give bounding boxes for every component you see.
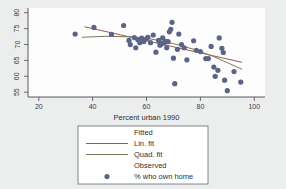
data-point xyxy=(145,35,150,40)
y-tick-label: 75 xyxy=(14,25,21,33)
chart-legend: FittedLin. fitQuad. fitObserved% who own… xyxy=(78,126,208,184)
data-point xyxy=(153,50,158,55)
y-tick-label: 65 xyxy=(14,56,21,64)
data-point xyxy=(73,31,78,36)
data-point xyxy=(151,32,156,37)
data-point xyxy=(182,45,187,50)
data-point xyxy=(238,79,243,84)
legend-marker-swatch xyxy=(104,174,109,179)
data-point xyxy=(172,81,177,86)
data-point xyxy=(175,47,180,52)
x-axis-ticks xyxy=(39,97,255,101)
data-point xyxy=(169,20,174,25)
x-tick-label: 80 xyxy=(197,103,205,110)
data-point xyxy=(209,44,214,49)
data-point xyxy=(198,49,203,54)
plot-panel xyxy=(28,8,265,97)
legend-label: Observed xyxy=(134,161,167,170)
data-point xyxy=(121,23,126,28)
scatter-plot: 80 75 70 65 60 55 20 40 60 80 100 Percen… xyxy=(0,0,286,189)
legend-label: Lin. fit xyxy=(134,139,155,148)
data-point xyxy=(91,25,96,30)
y-axis-tick-labels: 80 75 70 65 60 55 xyxy=(14,9,21,96)
data-point xyxy=(148,40,153,45)
data-point xyxy=(171,56,176,61)
x-tick-label: 20 xyxy=(35,103,43,110)
data-point xyxy=(184,57,189,62)
data-point xyxy=(215,68,220,73)
x-axis-title: Percent urban 1990 xyxy=(114,113,180,122)
legend-label: Quad. fit xyxy=(134,150,163,159)
y-tick-label: 60 xyxy=(14,72,21,80)
data-point xyxy=(165,39,170,44)
data-point xyxy=(225,88,230,93)
x-axis-tick-labels: 20 40 60 80 100 xyxy=(35,103,260,110)
data-point xyxy=(222,78,227,83)
data-point xyxy=(231,69,236,74)
data-point xyxy=(206,56,211,61)
legend-label: % who own home xyxy=(134,172,193,181)
data-point xyxy=(164,45,169,50)
y-tick-label: 70 xyxy=(14,41,21,49)
data-point xyxy=(217,35,222,40)
data-point xyxy=(109,32,114,37)
data-point xyxy=(133,45,138,50)
data-point xyxy=(221,50,226,55)
data-point xyxy=(211,65,216,70)
data-point xyxy=(176,31,181,36)
data-point xyxy=(191,38,196,43)
y-axis-ticks xyxy=(24,13,28,93)
x-tick-label: 100 xyxy=(248,103,260,110)
data-point xyxy=(168,27,173,32)
data-point xyxy=(213,74,218,79)
y-tick-label: 55 xyxy=(14,88,21,96)
data-point xyxy=(128,42,133,47)
y-tick-label: 80 xyxy=(14,9,21,17)
chart-figure: 80 75 70 65 60 55 20 40 60 80 100 Percen… xyxy=(0,0,286,189)
x-tick-label: 60 xyxy=(143,103,151,110)
x-tick-label: 40 xyxy=(89,103,97,110)
legend-label: Fitted xyxy=(134,128,153,137)
